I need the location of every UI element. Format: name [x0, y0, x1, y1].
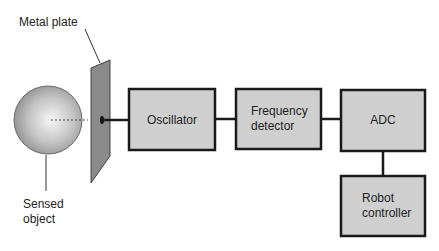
frequency-detector-label-line2: detector: [251, 119, 294, 133]
metal-plate-leader: [85, 29, 100, 63]
adc-block: ADC: [341, 90, 425, 151]
frequency-detector-label-line1: Frequency: [251, 104, 308, 118]
frequency-detector-block: Frequency detector: [236, 89, 321, 149]
metal-plate-label: Metal plate: [19, 15, 78, 29]
robot-controller-block: Robot controller: [341, 176, 425, 236]
adc-label: ADC: [370, 113, 396, 127]
metal-plate: [91, 60, 110, 183]
sensed-object-label-line2: object: [23, 212, 56, 226]
diagram-canvas: Sensed object Metal plate Oscillator Fre…: [0, 0, 439, 251]
oscillator-block: Oscillator: [129, 89, 215, 150]
sensed-object-label-line1: Sensed: [23, 197, 64, 211]
oscillator-label: Oscillator: [147, 113, 197, 127]
robot-controller-label-line1: Robot: [362, 191, 395, 205]
robot-controller-label-line2: controller: [362, 206, 411, 220]
